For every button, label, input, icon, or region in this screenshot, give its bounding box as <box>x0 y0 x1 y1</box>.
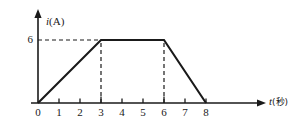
x-axis-unit: (秒) <box>272 97 288 107</box>
x-tick-label-6: 6 <box>157 107 171 118</box>
current-waveform-line <box>38 40 206 103</box>
x-tick-label-1: 1 <box>52 107 66 118</box>
y-axis-unit: (A) <box>49 15 64 27</box>
x-tick-label-7: 7 <box>178 107 192 118</box>
x-tick-label-5: 5 <box>136 107 150 118</box>
x-tick-label-0: 0 <box>31 107 45 118</box>
x-axis-arrow-icon <box>257 99 266 106</box>
x-tick-label-2: 2 <box>73 107 87 118</box>
x-tick-label-4: 4 <box>115 107 129 118</box>
y-axis-label: i(A) <box>46 16 64 27</box>
current-time-graph-figure: i(A) 6 t(秒) 0 1 2 3 4 5 6 7 8 <box>0 0 308 130</box>
x-tick-label-8: 8 <box>199 107 213 118</box>
x-axis-label: t(秒) <box>269 96 288 107</box>
y-tick-label-6: 6 <box>19 34 33 45</box>
x-axis-ticks <box>59 97 206 104</box>
y-axis-arrow-icon <box>34 9 41 18</box>
x-tick-label-3: 3 <box>94 107 108 118</box>
